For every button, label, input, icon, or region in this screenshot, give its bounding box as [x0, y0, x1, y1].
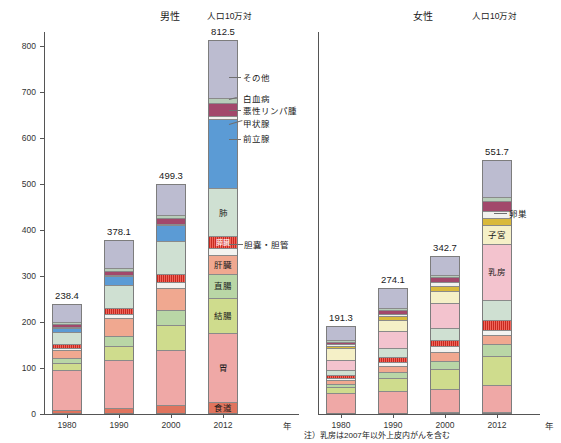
segment-female-2012-肝臓[interactable]: [483, 336, 511, 344]
segment-female-2012-卵巣[interactable]: [483, 219, 511, 225]
segment-female-1980-結腸[interactable]: [327, 388, 355, 394]
segment-female-1990-白血病[interactable]: [379, 309, 407, 311]
segment-male-1990-甲状腺[interactable]: [105, 276, 133, 277]
segment-male-2000-胆嚢・胆管[interactable]: [157, 283, 185, 289]
segment-male-1980-肝臓[interactable]: [53, 351, 81, 359]
segment-male-2012-肺[interactable]: 肺: [209, 189, 237, 237]
segment-female-2012-胆嚢・胆管[interactable]: [483, 331, 511, 337]
segment-male-1980-その他[interactable]: [53, 305, 81, 323]
segment-male-2012-食道[interactable]: 食道: [209, 403, 237, 414]
segment-female-1990-その他[interactable]: [379, 289, 407, 309]
segment-female-2012-膵臓[interactable]: [483, 321, 511, 331]
segment-female-2000-甲状腺[interactable]: [431, 283, 459, 287]
segment-female-2012-悪性リンパ腫[interactable]: [483, 202, 511, 212]
segment-male-2012-その他[interactable]: [209, 41, 237, 99]
segment-male-1980-前立腺[interactable]: [53, 328, 81, 333]
segment-female-1980-胃[interactable]: [327, 394, 355, 414]
segment-male-2000-肝臓[interactable]: [157, 289, 185, 311]
segment-female-1980-肝臓[interactable]: [327, 381, 355, 384]
segment-female-2000-食道[interactable]: [431, 413, 459, 414]
segment-male-2000-胃[interactable]: [157, 351, 185, 406]
segment-male-1980-胆嚢・胆管[interactable]: [53, 349, 81, 351]
segment-female-2012-食道[interactable]: [483, 413, 511, 414]
segment-male-2000-膵臓[interactable]: [157, 275, 185, 283]
segment-male-1990-肝臓[interactable]: [105, 319, 133, 336]
segment-female-1990-甲状腺[interactable]: [379, 315, 407, 318]
segment-male-1990-膵臓[interactable]: [105, 309, 133, 315]
segment-female-1980-胆嚢・胆管[interactable]: [327, 379, 355, 381]
segment-male-2012-甲状腺[interactable]: [209, 117, 237, 121]
bar-female-1990[interactable]: [378, 288, 408, 414]
segment-female-1990-膵臓[interactable]: [379, 358, 407, 362]
segment-male-2012-胃[interactable]: 胃: [209, 334, 237, 402]
segment-female-1990-卵巣[interactable]: [379, 317, 407, 321]
bar-female-2000[interactable]: [430, 256, 460, 414]
segment-male-2000-悪性リンパ腫[interactable]: [157, 219, 185, 225]
segment-female-1990-胆嚢・胆管[interactable]: [379, 363, 407, 367]
segment-female-1980-悪性リンパ腫[interactable]: [327, 343, 355, 345]
segment-male-1980-食道[interactable]: [53, 411, 81, 414]
bar-female-1980[interactable]: [326, 326, 356, 414]
segment-female-1990-悪性リンパ腫[interactable]: [379, 311, 407, 314]
segment-male-1980-肺[interactable]: [53, 333, 81, 345]
segment-male-1980-結腸[interactable]: [53, 364, 81, 370]
segment-female-2000-子宮[interactable]: [431, 292, 459, 304]
bar-male-1980[interactable]: [52, 304, 82, 414]
segment-female-1980-その他[interactable]: [327, 327, 355, 341]
segment-female-2000-乳房[interactable]: [431, 304, 459, 329]
segment-male-2000-甲状腺[interactable]: [157, 225, 185, 226]
segment-female-2012-白血病[interactable]: [483, 198, 511, 202]
segment-male-1990-悪性リンパ腫[interactable]: [105, 272, 133, 276]
segment-male-1980-胃[interactable]: [53, 371, 81, 412]
segment-female-2000-卵巣[interactable]: [431, 287, 459, 292]
segment-female-1980-肺[interactable]: [327, 371, 355, 377]
segment-male-2012-白血病[interactable]: [209, 99, 237, 104]
segment-female-2012-肺[interactable]: [483, 301, 511, 321]
segment-female-2012-子宮[interactable]: 子宮: [483, 226, 511, 245]
segment-female-2000-悪性リンパ腫[interactable]: [431, 278, 459, 283]
segment-male-1980-直腸[interactable]: [53, 359, 81, 365]
segment-male-1980-膵臓[interactable]: [53, 345, 81, 349]
segment-female-1980-子宮[interactable]: [327, 349, 355, 361]
segment-male-1990-食道[interactable]: [105, 409, 133, 414]
bar-male-2000[interactable]: [156, 184, 186, 414]
segment-female-1980-白血病[interactable]: [327, 341, 355, 343]
segment-female-2012-結腸[interactable]: [483, 357, 511, 386]
segment-male-2012-前立腺[interactable]: [209, 120, 237, 189]
segment-female-2012-直腸[interactable]: [483, 345, 511, 357]
segment-female-2000-肺[interactable]: [431, 329, 459, 341]
segment-female-1990-胃[interactable]: [379, 392, 407, 414]
segment-female-1990-直腸[interactable]: [379, 373, 407, 379]
segment-female-2000-その他[interactable]: [431, 257, 459, 276]
segment-male-2000-その他[interactable]: [157, 185, 185, 216]
segment-male-1980-甲状腺[interactable]: [53, 328, 81, 329]
segment-male-2012-直腸[interactable]: 直腸: [209, 275, 237, 298]
segment-male-1990-肺[interactable]: [105, 286, 133, 309]
segment-female-2012-胃[interactable]: [483, 386, 511, 412]
segment-female-2000-白血病[interactable]: [431, 276, 459, 278]
segment-female-1980-甲状腺[interactable]: [327, 345, 355, 347]
segment-female-1980-卵巣[interactable]: [327, 347, 355, 349]
segment-male-1990-その他[interactable]: [105, 241, 133, 269]
segment-male-1990-胃[interactable]: [105, 361, 133, 409]
segment-male-2000-白血病[interactable]: [157, 216, 185, 219]
segment-male-2000-前立腺[interactable]: [157, 226, 185, 242]
segment-male-1980-白血病[interactable]: [53, 323, 81, 325]
bar-male-1990[interactable]: [104, 240, 134, 414]
segment-female-2000-膵臓[interactable]: [431, 341, 459, 347]
segment-female-2012-その他[interactable]: [483, 161, 511, 198]
segment-male-1990-胆嚢・胆管[interactable]: [105, 315, 133, 319]
bar-female-2012[interactable]: 乳房子宮: [482, 160, 512, 414]
segment-male-2000-結腸[interactable]: [157, 326, 185, 352]
segment-male-1990-前立腺[interactable]: [105, 277, 133, 285]
segment-male-2000-直腸[interactable]: [157, 311, 185, 326]
segment-female-2000-胆嚢・胆管[interactable]: [431, 347, 459, 353]
segment-female-2000-胃[interactable]: [431, 390, 459, 413]
segment-female-2012-乳房[interactable]: 乳房: [483, 245, 511, 301]
segment-female-1990-子宮[interactable]: [379, 321, 407, 332]
bar-male-2012[interactable]: 食道胃結腸直腸肝臓膵臓肺: [208, 40, 238, 414]
segment-male-1990-白血病[interactable]: [105, 269, 133, 272]
segment-female-1980-直腸[interactable]: [327, 385, 355, 388]
segment-female-1990-肺[interactable]: [379, 349, 407, 358]
segment-male-1990-結腸[interactable]: [105, 347, 133, 361]
